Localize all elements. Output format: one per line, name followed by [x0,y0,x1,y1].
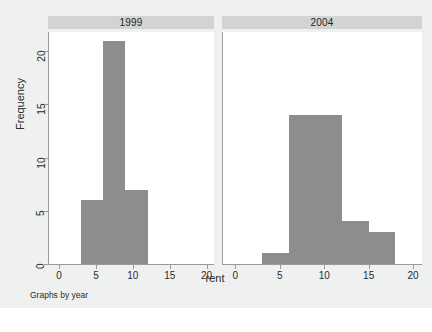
plot-area-1999 [48,32,214,265]
stata-graph-canvas: Frequency 05101520 1999 05101520 2004 05… [0,0,432,308]
panel-header-label: 2004 [310,17,333,28]
y-axis-tick-label: 15 [36,104,47,115]
panel-header-1999: 1999 [48,16,214,29]
bars-1999 [48,32,214,264]
x-axis-tick-label: 5 [270,270,290,281]
x-axis-title: rent [160,272,270,284]
histogram-bar [262,253,289,264]
histogram-bar [125,190,147,264]
x-axis-tick-mark [207,265,208,269]
x-axis-tick-label: 10 [123,270,143,281]
panel-header-label: 1999 [119,17,142,28]
x-axis-tick-mark [235,265,236,269]
histogram-bar [103,41,125,264]
y-axis: 05101520 [24,32,48,265]
x-axis-tick-mark [369,265,370,269]
x-axis-tick-label: 0 [49,270,69,281]
graph-note: Graphs by year [30,290,88,300]
x-axis-tick-label: 10 [314,270,334,281]
y-axis-tick-label: 10 [36,157,47,168]
histogram-bar [81,200,103,264]
histogram-bar [342,221,369,264]
x-axis-tick-label: 15 [359,270,379,281]
histogram-bar [289,115,316,264]
x-axis-tick-mark [170,265,171,269]
bars-2004 [222,32,422,264]
y-axis-tick-label: 20 [36,51,47,62]
histogram-bar [315,115,342,264]
panel-header-2004: 2004 [222,16,422,29]
x-axis-tick-mark [133,265,134,269]
x-axis-tick-mark [413,265,414,269]
plot-area-2004 [222,32,422,265]
x-axis-tick-label: 5 [86,270,106,281]
x-axis-tick-mark [280,265,281,269]
x-axis-tick-mark [96,265,97,269]
x-axis-tick-mark [324,265,325,269]
x-axis-tick-mark [59,265,60,269]
histogram-bar [369,232,396,264]
x-axis-tick-label: 20 [403,270,423,281]
